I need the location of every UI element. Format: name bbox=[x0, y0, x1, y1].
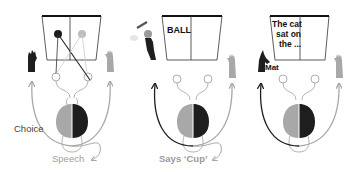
screen: The cat sat on the ... bbox=[270, 16, 329, 60]
screen-line-1: The cat bbox=[272, 19, 302, 29]
left-eye bbox=[279, 75, 287, 83]
right-eye bbox=[311, 75, 319, 83]
panel-2: BALL Says ‘Cup’ bbox=[130, 16, 236, 164]
written-response: Mat bbox=[265, 63, 279, 72]
choice-label: Choice bbox=[14, 123, 44, 134]
speech-label: Speech bbox=[52, 153, 84, 164]
left-eye bbox=[52, 73, 60, 81]
panel-1: Choice Speech bbox=[14, 16, 114, 164]
screen-line-3: the ... bbox=[279, 39, 301, 49]
brain bbox=[56, 104, 88, 152]
screen: BALL bbox=[162, 16, 222, 60]
split-brain-diagram: Choice Speech BALL bbox=[0, 0, 352, 172]
screen-line-2: sat on bbox=[276, 29, 301, 39]
right-hand-icon bbox=[105, 50, 114, 72]
screen-word: BALL bbox=[167, 25, 191, 35]
right-hand-icon bbox=[334, 54, 343, 78]
speech-label: Says ‘Cup’ bbox=[159, 153, 208, 164]
left-eye bbox=[173, 75, 181, 83]
pencil-icon bbox=[137, 22, 147, 28]
right-eye bbox=[204, 75, 212, 83]
left-hand-holding-object-icon bbox=[130, 30, 156, 60]
right-hand-icon bbox=[227, 54, 236, 78]
panel-3: The cat sat on the ... Mat bbox=[258, 16, 343, 152]
left-hand-icon bbox=[28, 50, 37, 72]
